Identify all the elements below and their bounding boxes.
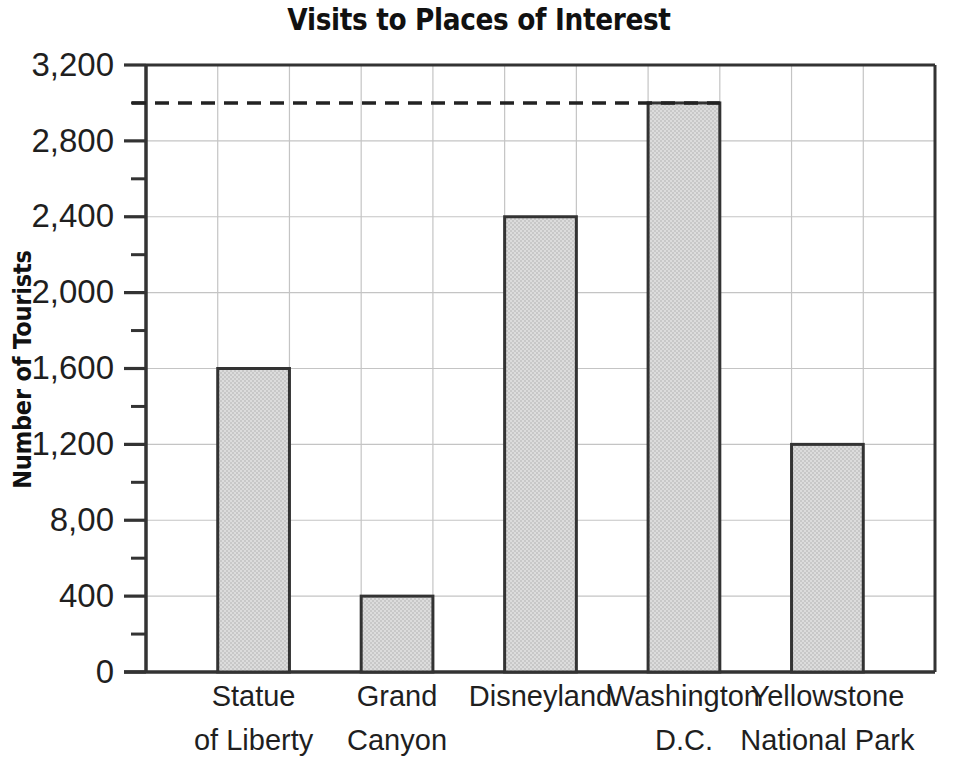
y-tick-label: 3,200 (31, 46, 114, 83)
x-tick-label: Yellowstone (751, 680, 905, 712)
x-tick-label: National Park (740, 724, 915, 756)
bar-rect (361, 596, 433, 672)
y-axis-tick-labels: 3,2002,8002,4002,0001,6001,2008,004000 (31, 46, 114, 690)
x-tick-label: Statue (212, 680, 296, 712)
bar-rect (218, 369, 290, 673)
x-tick-label: D.C. (655, 724, 713, 756)
y-axis-major-ticks (124, 65, 146, 672)
plot-area: 3,2002,8002,4002,0001,6001,2008,004000 S… (0, 0, 958, 771)
bar-rect (505, 217, 577, 672)
bar (648, 103, 720, 672)
y-tick-label: 1,200 (31, 425, 114, 462)
y-tick-label: 0 (96, 653, 114, 690)
x-axis-tick-labels: Statueof LibertyGrandCanyonDisneylandWas… (194, 680, 915, 756)
x-tick-label: Canyon (347, 724, 447, 756)
bar (218, 369, 290, 673)
bar-rect (648, 103, 720, 672)
bar-rect (792, 444, 864, 672)
x-tick-label: of Liberty (194, 724, 314, 756)
y-tick-label: 2,400 (31, 197, 114, 234)
bar-chart: Visits to Places of Interest Number of T… (0, 0, 958, 771)
bar (361, 596, 433, 672)
y-tick-label: 8,00 (50, 501, 114, 538)
bar-series (218, 103, 864, 672)
y-tick-label: 2,000 (31, 273, 114, 310)
y-tick-label: 2,800 (31, 122, 114, 159)
x-tick-label: Disneyland (469, 680, 612, 712)
y-tick-label: 400 (59, 577, 114, 614)
bar (792, 444, 864, 672)
x-tick-label: Washington (608, 680, 760, 712)
y-tick-label: 1,600 (31, 349, 114, 386)
x-tick-label: Grand (357, 680, 438, 712)
bar (505, 217, 577, 672)
